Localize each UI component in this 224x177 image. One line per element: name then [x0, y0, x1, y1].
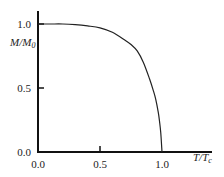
y-tick-label: 0.5 [17, 82, 31, 94]
x-tick-label: 0.0 [31, 158, 45, 170]
y-tick-label: 1.0 [17, 18, 31, 30]
magnetization-chart: 0.00.51.00.00.51.0 M/M0 T/Tc [0, 0, 224, 177]
axes [37, 11, 212, 153]
x-axis-label: T/Tc [193, 151, 212, 165]
y-tick-label: 0.0 [17, 146, 31, 158]
x-tick-label: 1.0 [155, 158, 169, 170]
ticks: 0.00.51.00.00.51.0 [17, 18, 169, 170]
magnetization-curve [38, 24, 162, 152]
y-axis-label: M/M0 [9, 36, 35, 50]
x-tick-label: 0.5 [93, 158, 107, 170]
